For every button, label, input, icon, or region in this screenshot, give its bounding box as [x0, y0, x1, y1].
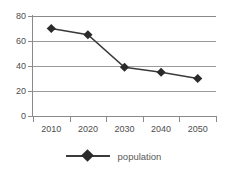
diamond-marker-icon [81, 149, 94, 162]
legend-item-population[interactable]: population [66, 150, 162, 162]
series-markers-population [47, 24, 203, 83]
series-layer [0, 0, 227, 174]
legend-swatch [66, 150, 110, 162]
legend-item-label: population [118, 151, 162, 162]
data-point-marker [193, 74, 202, 83]
data-point-marker [47, 24, 56, 33]
population-line-chart: 020406080 20102020203020402050 populatio… [0, 0, 227, 174]
data-point-marker [157, 68, 166, 77]
legend: population [0, 150, 227, 162]
